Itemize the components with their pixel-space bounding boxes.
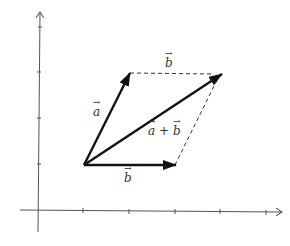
label-b-top-text: b [165,57,173,69]
label-a-text: a [93,106,100,118]
label-vector-sum: a + b [148,125,181,137]
label-sum-a-text: a [148,125,155,137]
dashed-edge-a-translated [175,80,217,165]
label-sum-b-text: b [173,125,181,137]
label-vector-a: a [93,106,100,118]
label-vector-b-bottom: b [124,172,132,184]
vector-diagram [0,0,290,246]
y-axis [38,12,40,232]
label-vector-b-top: b [165,57,173,69]
label-sum-plus: + [159,124,169,138]
x-axis [20,210,282,212]
dashed-edge-b-translated [130,73,214,74]
label-b-bottom-text: b [124,172,132,184]
